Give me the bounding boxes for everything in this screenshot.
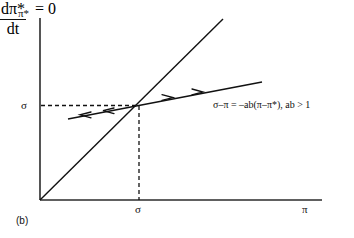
figure-caption: (b) — [16, 216, 28, 226]
curve-annotation: σ–π = –ab(π–π*), ab > 1 — [213, 100, 310, 110]
y-tick-label-sigma: σ — [21, 100, 27, 111]
y-axis-label: π* — [18, 8, 29, 19]
figure-panel: π* π σ σ dπ* dt = 0 σ–π = –ab(π–π*), ab … — [0, 0, 354, 238]
x-tick-label-sigma: σ — [135, 204, 141, 215]
nullcline-line — [40, 19, 223, 200]
x-axis-label: π — [302, 204, 308, 215]
phase-diagram-plot — [0, 0, 354, 238]
